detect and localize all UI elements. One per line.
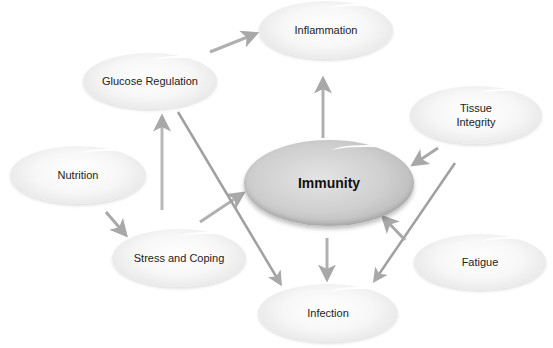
- node-label: Infection: [307, 306, 349, 320]
- node-immunity: Immunity: [244, 140, 414, 226]
- node-glucose-regulation: Glucose Regulation: [83, 53, 217, 109]
- node-label: Fatigue: [462, 255, 499, 269]
- arrow-glucose-to-inflammation: [210, 34, 255, 52]
- node-tissue-integrity: Tissue Integrity: [410, 86, 542, 144]
- node-label: Nutrition: [58, 168, 99, 182]
- immunity-concept-map: Inflammation Glucose Regulation Tissue I…: [0, 0, 553, 348]
- node-stress-and-coping: Stress and Coping: [112, 229, 246, 287]
- label-line-1: Tissue: [460, 102, 492, 114]
- node-label: Immunity: [298, 176, 360, 190]
- arrow-tissue-to-immunity: [414, 148, 438, 164]
- node-infection: Infection: [258, 284, 398, 342]
- node-label: Inflammation: [295, 23, 358, 37]
- label-line-2: Integrity: [456, 116, 495, 128]
- node-label: Tissue Integrity: [456, 101, 495, 129]
- node-label: Stress and Coping: [134, 251, 225, 265]
- node-label: Glucose Regulation: [102, 74, 198, 88]
- node-fatigue: Fatigue: [414, 234, 546, 290]
- node-inflammation: Inflammation: [259, 1, 393, 59]
- arrow-nutrition-to-stress: [106, 212, 125, 234]
- arrow-fatigue-to-immunity: [384, 218, 405, 240]
- node-nutrition: Nutrition: [10, 146, 146, 204]
